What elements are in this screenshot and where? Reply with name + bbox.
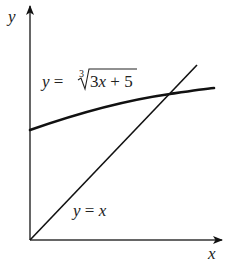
x-axis-label: x: [207, 244, 216, 263]
curve-label-y: y: [40, 72, 50, 91]
cube-root-curve-label: y = 3 3x + 5: [40, 68, 137, 91]
y-axis-label: y: [6, 7, 16, 26]
radicand-3: 3: [90, 72, 99, 91]
svg-text:y =: y =: [40, 72, 63, 91]
function-graph: y x y = 3 3x + 5 y = x: [0, 0, 239, 263]
svg-text:3x + 5: 3x + 5: [90, 72, 133, 91]
cube-root-curve: [30, 88, 214, 130]
root-index: 3: [79, 68, 84, 79]
curve-label-eq: =: [50, 72, 64, 91]
identity-line-label: y = x: [71, 201, 107, 220]
radicand-rest: + 5: [106, 72, 133, 91]
identity-line: [30, 65, 197, 240]
